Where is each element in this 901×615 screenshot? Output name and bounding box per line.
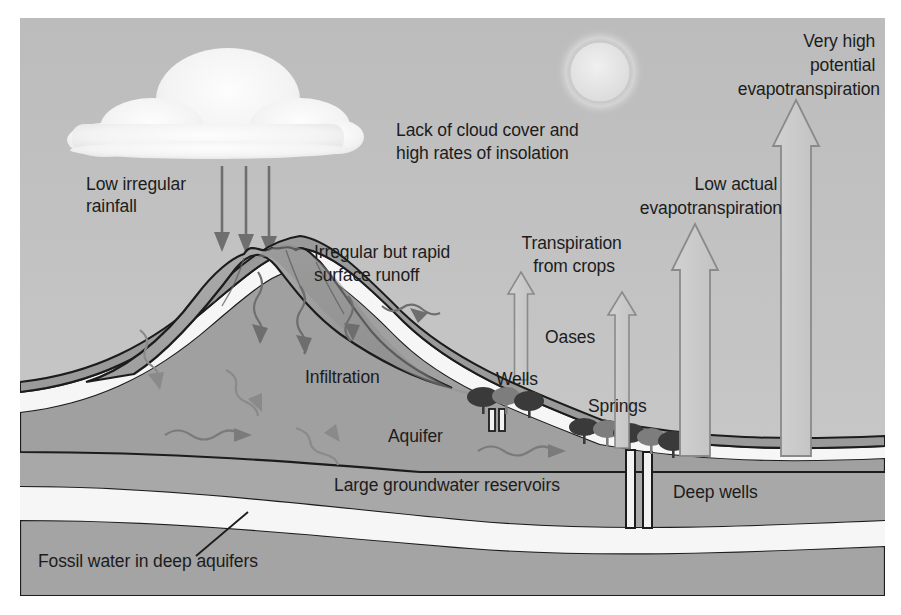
label-infiltration: Infiltration	[305, 367, 380, 387]
label-wells: Wells	[496, 369, 538, 389]
sun-disc	[570, 42, 630, 102]
label-oases: Oases	[545, 327, 595, 347]
hydrological-cycle-diagram: Low irregular rainfall Lack of cloud cov…	[0, 0, 901, 615]
label-deep-wells: Deep wells	[673, 482, 758, 502]
label-large-groundwater-reservoirs: Large groundwater reservoirs	[334, 475, 560, 495]
label-fossil-water-in-deep-aquifers: Fossil water in deep aquifers	[38, 551, 258, 571]
label-springs: Springs	[588, 396, 647, 416]
sun	[556, 28, 644, 116]
label-aquifer: Aquifer	[388, 426, 443, 446]
diagram-canvas: Low irregular rainfall Lack of cloud cov…	[0, 0, 901, 615]
